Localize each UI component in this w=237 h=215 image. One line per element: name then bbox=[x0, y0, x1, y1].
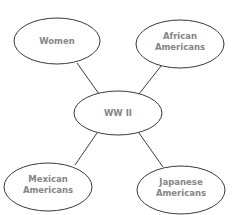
node-center: WW II bbox=[74, 91, 162, 135]
edge-center-women bbox=[77, 63, 99, 94]
web-diagram: Women African Americans WW II Mexican Am… bbox=[0, 0, 237, 215]
node-center-label: WW II bbox=[104, 108, 132, 118]
node-mexican-americans-label-line2: Americans bbox=[23, 185, 73, 195]
node-african-americans: African Americans bbox=[136, 20, 224, 68]
node-african-americans-label-line2: Americans bbox=[155, 42, 205, 52]
edge-center-mexican-americans bbox=[75, 133, 97, 165]
node-mexican-americans-label-line1: Mexican bbox=[28, 174, 67, 184]
node-women: Women bbox=[14, 18, 100, 64]
edge-center-japanese-americans bbox=[139, 133, 163, 167]
node-mexican-americans: Mexican Americans bbox=[4, 163, 92, 211]
node-african-americans-label-line1: African bbox=[163, 31, 197, 41]
node-japanese-americans-label-line2: Americans bbox=[156, 188, 206, 198]
edge-center-african-americans bbox=[139, 66, 161, 94]
node-japanese-americans-label-line1: Japanese bbox=[158, 177, 203, 187]
node-women-label: Women bbox=[39, 36, 75, 46]
node-japanese-americans: Japanese Americans bbox=[137, 166, 225, 214]
